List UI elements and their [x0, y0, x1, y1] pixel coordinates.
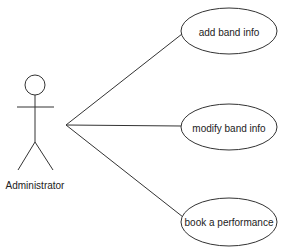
actor-left-leg [18, 142, 35, 170]
associations [66, 34, 183, 217]
association-book-performance [66, 125, 183, 217]
actor-figure [17, 75, 54, 170]
association-add-band-info [66, 34, 182, 125]
use-case-label: book a performance [185, 217, 274, 228]
actor-label: Administrator [6, 180, 65, 191]
actor-right-leg [35, 142, 53, 170]
association-modify-band-info [66, 125, 181, 126]
use-case-label: add band info [199, 27, 260, 38]
use-case-label: modify band info [192, 123, 265, 134]
actor-head [25, 75, 45, 95]
